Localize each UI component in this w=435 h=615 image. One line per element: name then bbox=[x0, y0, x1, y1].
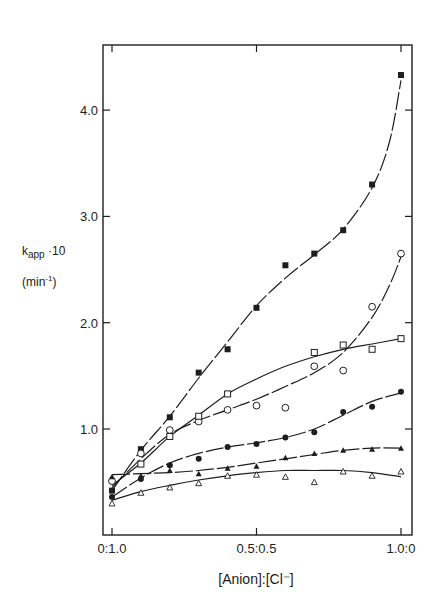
open-square-marker bbox=[167, 433, 173, 439]
open-square-marker bbox=[340, 342, 346, 348]
y-tick-label: 1.0 bbox=[80, 422, 98, 437]
y-tick-label: 4.0 bbox=[80, 103, 98, 118]
filled-triangle-marker bbox=[254, 463, 260, 469]
filled-square-marker bbox=[311, 251, 317, 257]
open-triangle-marker bbox=[311, 479, 317, 485]
x-tick-label: 0:1.0 bbox=[98, 541, 127, 556]
open-square-marker bbox=[398, 336, 404, 342]
filled-circle-marker bbox=[167, 462, 173, 468]
open-square-marker bbox=[311, 349, 317, 355]
open-circle-marker bbox=[166, 427, 173, 434]
plot-frame bbox=[103, 45, 412, 535]
open-triangle-marker bbox=[398, 469, 404, 475]
filled-square-marker bbox=[167, 414, 173, 420]
y-tick-label: 2.0 bbox=[80, 316, 98, 331]
y-axis-unit: (min-1) bbox=[22, 274, 56, 289]
kinetics-chart: 1.02.03.04.00:1.00.5:0.51.0:0 [Anion]:[C… bbox=[0, 0, 435, 615]
filled-circle-marker bbox=[225, 444, 231, 450]
fit-curve-open-circle bbox=[112, 257, 401, 488]
filled-circle-marker bbox=[254, 441, 260, 447]
filled-square-marker bbox=[225, 346, 231, 352]
filled-triangle-marker bbox=[311, 450, 317, 456]
filled-circle-marker bbox=[369, 404, 375, 410]
x-tick-label: 1.0:0 bbox=[387, 541, 416, 556]
filled-square-marker bbox=[254, 305, 260, 311]
open-circle-marker bbox=[311, 363, 318, 370]
open-square-marker bbox=[196, 413, 202, 419]
x-tick-label: 0.5:0.5 bbox=[237, 541, 277, 556]
open-triangle-marker bbox=[340, 469, 346, 475]
open-circle-marker bbox=[369, 303, 376, 310]
open-circle-marker bbox=[253, 402, 260, 409]
open-triangle-marker bbox=[196, 480, 202, 486]
filled-circle-marker bbox=[311, 429, 317, 435]
open-circle-marker bbox=[138, 450, 145, 457]
plot-border bbox=[103, 45, 412, 535]
open-circle-marker bbox=[282, 404, 289, 411]
open-triangle-marker bbox=[109, 500, 115, 506]
filled-triangle-marker bbox=[369, 446, 375, 452]
filled-square-marker bbox=[369, 182, 375, 188]
open-square-marker bbox=[225, 391, 231, 397]
open-circle-marker bbox=[398, 250, 405, 257]
open-square-marker bbox=[138, 461, 144, 467]
y-tick-label: 3.0 bbox=[80, 209, 98, 224]
fit-curves bbox=[112, 80, 401, 500]
y-axis-unit-open: (min bbox=[22, 275, 45, 289]
open-circle-marker bbox=[340, 367, 347, 374]
axis-ticks: 1.02.03.04.00:1.00.5:0.51.0:0 bbox=[80, 45, 416, 556]
filled-circle-marker bbox=[282, 435, 288, 441]
filled-square-marker bbox=[196, 370, 202, 376]
open-triangle-marker bbox=[369, 473, 375, 479]
filled-triangle-marker bbox=[196, 471, 202, 477]
filled-circle-marker bbox=[196, 456, 202, 462]
open-circle-marker bbox=[224, 406, 231, 413]
filled-circle-marker bbox=[340, 409, 346, 415]
open-square-marker bbox=[369, 346, 375, 352]
filled-circle-marker bbox=[109, 494, 115, 500]
data-markers bbox=[109, 72, 405, 506]
filled-circle-marker bbox=[398, 389, 404, 395]
x-axis-title: [Anion]:[Cl⁻] bbox=[218, 571, 293, 587]
filled-square-marker bbox=[109, 488, 115, 494]
filled-square-marker bbox=[282, 262, 288, 268]
filled-triangle-marker bbox=[282, 455, 288, 461]
filled-triangle-marker bbox=[167, 467, 173, 473]
filled-square-marker bbox=[340, 227, 346, 233]
filled-square-marker bbox=[398, 72, 404, 78]
y-axis-unit-close: ) bbox=[52, 275, 56, 289]
y-axis-title: kapp ·10 bbox=[22, 244, 65, 260]
y-axis-title-tail: ·10 bbox=[45, 244, 66, 258]
fit-curve-filled-square bbox=[112, 80, 401, 490]
open-triangle-marker bbox=[282, 474, 288, 480]
y-axis-title-sub: app bbox=[28, 249, 45, 260]
